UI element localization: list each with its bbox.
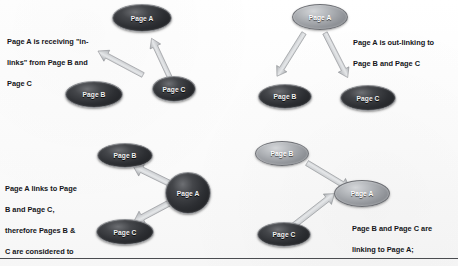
node-label: Page B [274,93,297,100]
node-label: Page B [271,150,294,157]
node-label: Page A [131,15,154,22]
caption-line: therefore Pages B & [5,226,75,235]
node-label: Page B [114,152,137,159]
node-page-a-indirect[interactable]: Page A [334,180,390,207]
node-page-c-colinking[interactable]: Page C [96,219,154,245]
caption-line: Page A is receiving "in- [7,37,88,46]
caption-line: B and Page C, [5,205,54,214]
caption-outlinks: Page A is out-linking to Page B and Page… [353,27,458,69]
node-label: Page C [114,229,137,236]
node-page-a-outlinks[interactable]: Page A [292,4,348,30]
caption-line: Page A links to Page [5,184,77,193]
node-page-c-indirect[interactable]: Page C [257,222,311,247]
caption-line: Page C [7,79,32,88]
node-label: Page A [351,190,374,197]
caption-line: Page A is out-linking to [353,38,434,47]
node-page-b-outlinks[interactable]: Page B [258,84,312,109]
bottom-divider [0,258,458,259]
caption-colinking: Page A links to Page B and Page C, there… [5,173,95,266]
node-label: Page A [309,14,332,21]
diagram-canvas: Page A Page B Page C Page A is receiving… [0,0,458,266]
caption-inlinks: Page A is receiving "in- links" from Pag… [7,26,122,89]
node-label: Page C [357,95,380,102]
node-label: Page C [273,231,296,238]
caption-line: C are considered to [5,247,74,256]
node-page-b-colinking[interactable]: Page B [97,143,153,168]
caption-line: Page B and Page C [353,59,420,68]
caption-line: links" from Page B and [7,58,88,67]
content-layer: Page A Page B Page C Page A is receiving… [0,0,458,266]
node-page-c-inlinks[interactable]: Page C [152,76,196,102]
node-page-a-colinking[interactable]: Page A [165,172,211,214]
node-label: Page C [163,86,186,93]
caption-line: linking to Page A; [352,245,414,254]
node-label: Page B [83,91,106,98]
node-page-b-indirect[interactable]: Page B [255,141,309,166]
caption-line: Page B and Page C are [352,224,432,233]
node-page-c-outlinks[interactable]: Page C [340,85,396,111]
node-label: Page A [177,190,200,197]
